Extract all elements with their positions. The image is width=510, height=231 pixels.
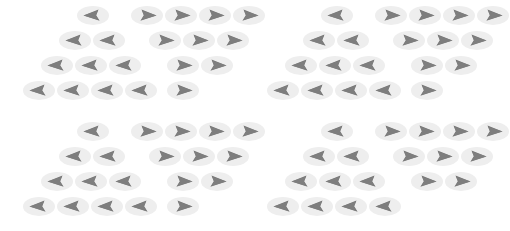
arrow-left-dart-icon [108,172,142,191]
arrow-right-dart-icon [476,6,510,25]
arrow-right-token[interactable] [444,172,478,191]
arrow-right-token[interactable] [410,81,444,100]
arrow-left-dart-icon [368,197,402,216]
token-row [302,147,370,166]
arrow-left-token[interactable] [368,197,402,216]
arrow-right-token[interactable] [200,172,234,191]
arrow-right-dart-icon [374,6,408,25]
arrow-left-dart-icon [334,81,368,100]
token-row [266,81,402,100]
arrow-right-token[interactable] [426,147,460,166]
arrow-left-token[interactable] [124,197,158,216]
arrow-left-token[interactable] [266,197,300,216]
arrow-left-dart-icon [40,172,74,191]
arrow-right-token[interactable] [166,197,200,216]
arrow-left-token[interactable] [302,147,336,166]
arrow-right-token[interactable] [444,56,478,75]
arrow-left-token[interactable] [90,197,124,216]
arrow-right-token[interactable] [442,122,476,141]
arrow-right-token[interactable] [460,147,494,166]
arrow-left-token[interactable] [22,81,56,100]
arrow-left-token[interactable] [302,31,336,50]
arrow-left-token[interactable] [74,56,108,75]
arrow-right-token[interactable] [182,31,216,50]
arrow-right-token[interactable] [476,122,510,141]
arrow-left-token[interactable] [22,197,56,216]
arrow-right-token[interactable] [148,31,182,50]
arrow-right-token[interactable] [392,31,426,50]
arrow-left-token[interactable] [320,122,354,141]
arrow-right-token[interactable] [200,56,234,75]
token-row [58,31,126,50]
arrow-right-token[interactable] [182,147,216,166]
arrow-right-token[interactable] [164,6,198,25]
arrow-right-token[interactable] [198,122,232,141]
arrow-left-token[interactable] [40,56,74,75]
arrow-right-token[interactable] [166,56,200,75]
arrow-left-dart-icon [352,172,386,191]
arrow-right-token[interactable] [130,6,164,25]
arrow-left-token[interactable] [336,147,370,166]
arrow-left-token[interactable] [368,81,402,100]
arrow-left-token[interactable] [92,147,126,166]
arrow-left-token[interactable] [74,172,108,191]
arrow-left-token[interactable] [334,81,368,100]
arrow-left-token[interactable] [336,31,370,50]
arrow-left-token[interactable] [284,56,318,75]
arrow-left-token[interactable] [300,81,334,100]
arrow-left-token[interactable] [108,56,142,75]
token-row [320,6,354,25]
arrow-left-dart-icon [320,122,354,141]
arrow-left-token[interactable] [266,81,300,100]
arrow-left-dart-icon [336,147,370,166]
arrow-right-dart-icon [460,31,494,50]
token-row [76,122,110,141]
arrow-right-token[interactable] [460,31,494,50]
arrow-right-dart-icon [426,31,460,50]
arrow-right-token[interactable] [408,122,442,141]
arrow-left-token[interactable] [300,197,334,216]
arrow-right-token[interactable] [410,172,444,191]
arrow-left-token[interactable] [318,172,352,191]
arrow-left-token[interactable] [108,172,142,191]
arrow-right-token[interactable] [148,147,182,166]
arrow-left-token[interactable] [76,6,110,25]
arrow-right-token[interactable] [198,6,232,25]
arrow-right-token[interactable] [166,81,200,100]
arrow-left-token[interactable] [56,197,90,216]
arrow-left-dart-icon [40,56,74,75]
arrow-left-token[interactable] [124,81,158,100]
arrow-left-token[interactable] [56,81,90,100]
arrow-right-dart-icon [410,56,444,75]
arrow-right-dart-icon [166,197,200,216]
arrow-right-token[interactable] [374,122,408,141]
arrow-left-token[interactable] [40,172,74,191]
arrow-right-token[interactable] [164,122,198,141]
arrow-left-token[interactable] [58,147,92,166]
arrow-left-token[interactable] [284,172,318,191]
arrow-left-token[interactable] [58,31,92,50]
arrow-left-token[interactable] [334,197,368,216]
arrow-left-token[interactable] [320,6,354,25]
arrow-left-token[interactable] [352,56,386,75]
arrow-left-token[interactable] [352,172,386,191]
arrow-right-token[interactable] [476,6,510,25]
arrow-right-token[interactable] [426,31,460,50]
arrow-right-dart-icon [442,6,476,25]
arrow-right-token[interactable] [408,6,442,25]
arrow-right-token[interactable] [166,172,200,191]
arrow-right-token[interactable] [410,56,444,75]
arrow-left-token[interactable] [92,31,126,50]
token-row [22,81,158,100]
token-row [392,31,494,50]
arrow-right-dart-icon [460,147,494,166]
arrow-left-token[interactable] [318,56,352,75]
token-row [40,56,142,75]
arrow-left-token[interactable] [90,81,124,100]
arrow-left-token[interactable] [76,122,110,141]
arrow-right-token[interactable] [130,122,164,141]
arrow-right-token[interactable] [442,6,476,25]
arrow-right-token[interactable] [392,147,426,166]
arrow-right-token[interactable] [374,6,408,25]
